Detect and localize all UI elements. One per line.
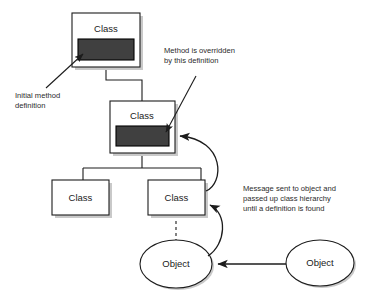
initial-method-line2: definition (15, 101, 45, 110)
annotation-message-passing: Message sent to object and passed up cla… (243, 184, 336, 213)
arrow-object-to-class (208, 205, 223, 256)
connector-top-to-middle (106, 67, 142, 101)
message-passing-line1: Message sent to object and (243, 184, 336, 193)
node-right-object[interactable]: Object (286, 240, 356, 288)
node-top-class[interactable]: Class (72, 13, 143, 70)
connector-middle-to-leaves (83, 152, 201, 180)
node-leaf-right-class[interactable]: Class (148, 180, 208, 218)
class-hierarchy-diagram: Class Class Class Class Object (0, 0, 371, 305)
top-class-label: Class (94, 23, 118, 34)
leaf-left-class-label: Class (69, 192, 93, 203)
leaf-right-class-label: Class (165, 192, 189, 203)
node-leaf-left-class[interactable]: Class (52, 180, 112, 218)
middle-class-method-bar (116, 126, 169, 146)
initial-method-leader-line (46, 54, 83, 88)
middle-class-label: Class (130, 110, 154, 121)
top-class-method-bar (78, 39, 134, 60)
overridden-method-line2: by this definition (164, 56, 218, 65)
initial-method-line1: Initial method (15, 91, 60, 100)
right-object-label: Object (306, 257, 334, 268)
diagram-canvas: Class Class Class Class Object (0, 0, 371, 305)
overridden-method-line1: Method is overridden (164, 46, 235, 55)
message-passing-line2: passed up class hierarchy (243, 194, 331, 203)
left-object-label: Object (162, 258, 190, 269)
node-left-object[interactable]: Object (140, 240, 214, 290)
message-passing-line3: until a definition is found (243, 204, 324, 213)
